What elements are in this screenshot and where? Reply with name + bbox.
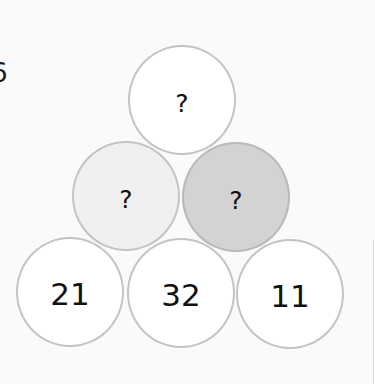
circle-label: 32 — [161, 280, 200, 311]
circle-label: 11 — [270, 281, 309, 312]
pyramid-bottom-right-circle: 11 — [236, 239, 344, 349]
circle-label: ? — [229, 188, 242, 213]
circle-label: ? — [119, 187, 132, 212]
circle-label: ? — [175, 91, 188, 116]
pyramid-bottom-middle-circle: 32 — [127, 238, 235, 348]
pyramid-bottom-left-circle: 21 — [16, 237, 124, 347]
pyramid-middle-right-circle: ? — [182, 142, 290, 252]
page-edge-line — [373, 240, 374, 384]
pyramid-middle-left-circle: ? — [72, 141, 180, 251]
pyramid-top-circle: ? — [128, 45, 236, 155]
circle-label: 21 — [50, 279, 89, 310]
question-number: 6 — [0, 60, 8, 86]
